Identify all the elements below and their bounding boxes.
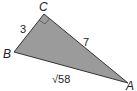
triangle-diagram: C B A 3 7 √58 <box>0 0 137 91</box>
side-label-ca: 7 <box>83 36 89 48</box>
triangle-shape <box>14 14 128 83</box>
vertex-label-b: B <box>3 47 11 61</box>
vertex-label-c: C <box>39 0 48 14</box>
vertex-label-a: A <box>125 79 134 91</box>
side-label-ba: √58 <box>52 73 70 85</box>
side-label-bc: 3 <box>20 23 26 35</box>
